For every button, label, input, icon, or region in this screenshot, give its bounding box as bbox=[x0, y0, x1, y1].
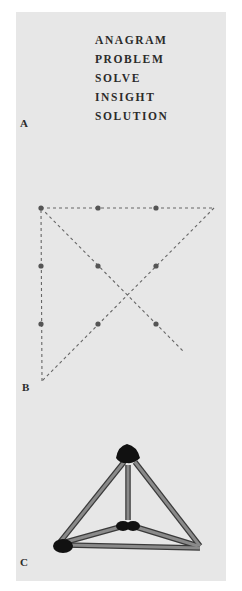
dot-grid bbox=[38, 205, 158, 326]
nine-dot-diagram bbox=[0, 0, 242, 591]
panel-label-b: B bbox=[22, 381, 29, 393]
matchstick-tetrahedron bbox=[53, 444, 200, 553]
solution-lines bbox=[41, 208, 214, 381]
panel-label-c: C bbox=[20, 556, 28, 568]
